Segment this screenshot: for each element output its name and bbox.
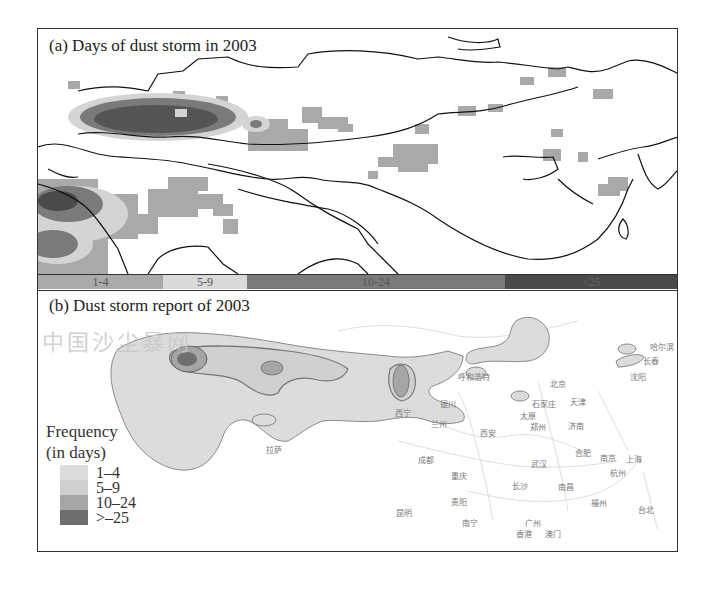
city-label: 香港 [516,528,532,539]
legend-title-line2: (in days) [46,442,136,463]
legend-swatch [60,465,88,480]
frequency-legend: Frequency (in days) 1–4 5–9 10–24 >–25 [46,421,136,525]
panel-b-dust-storm-report: 中国沙尘暴网 (b) Dust storm report of 2003 呼和浩… [38,290,677,553]
city-label: 南宁 [462,517,478,528]
city-label: 长春 [643,355,659,366]
city-label: 哈尔滨 [650,341,674,352]
city-label: 台北 [638,504,654,515]
city-label: 上海 [626,453,642,464]
city-label: 南京 [600,452,616,463]
city-label: 兰州 [431,418,447,429]
city-label: 呼和浩特 [458,371,490,382]
legend-swatch [60,480,88,495]
legend-title-line1: Frequency [46,421,136,442]
colorbar-segment-5-9: 5-9 [163,275,247,289]
legend-swatch [60,510,88,525]
city-label: 澳门 [545,528,561,539]
panel-a-colorbar: 1-4 5-9 10-24 >25 [38,274,677,289]
city-label: 南昌 [558,481,574,492]
city-label: 太原 [520,410,536,421]
city-label: 长沙 [512,480,528,491]
city-label: 福州 [591,497,607,508]
panel-a-title: (a) Days of dust storm in 2003 [49,36,257,56]
city-label: 合肥 [575,447,591,458]
city-label: 西安 [480,427,496,438]
city-label: 银川 [440,398,456,409]
city-label: 武汉 [531,458,547,469]
panel-a-days-of-dust-storm: (a) Days of dust storm in 2003 1-4 5-9 1… [38,29,677,289]
city-label: 成都 [418,454,434,465]
city-label: 郑州 [530,421,546,432]
watermark-text: 中国沙尘暴网 [42,324,192,356]
colorbar-segment-gt25: >25 [505,275,677,289]
city-label: 沈阳 [630,371,646,382]
dust-region-ne [466,317,549,364]
city-label: 广州 [525,517,541,528]
city-label: 重庆 [451,470,467,481]
legend-item-5-9: 5–9 [60,480,136,495]
legend-label: 10–24 [96,495,136,510]
legend-swatch [60,495,88,510]
city-label: 拉萨 [266,444,282,455]
city-label: 北京 [550,378,566,389]
figure-frame: (a) Days of dust storm in 2003 1-4 5-9 1… [37,28,678,552]
city-label: 石家庄 [532,398,556,409]
colorbar-segment-10-24: 10-24 [247,275,505,289]
legend-label: 1–4 [96,465,120,480]
colorbar-segment-1-4: 1-4 [38,275,163,289]
city-label: 杭州 [610,467,626,478]
city-label: 天津 [570,396,586,407]
panel-a-map [38,29,677,274]
legend-item-1-4: 1–4 [60,465,136,480]
legend-label: >–25 [96,510,129,525]
city-label: 西宁 [395,407,411,418]
city-label: 昆明 [396,507,412,518]
legend-item-gt25: >–25 [60,510,136,525]
legend-label: 5–9 [96,480,120,495]
legend-item-10-24: 10–24 [60,495,136,510]
panel-b-title: (b) Dust storm report of 2003 [49,296,250,316]
city-label: 贵阳 [451,496,467,507]
city-label: 济南 [568,420,584,431]
